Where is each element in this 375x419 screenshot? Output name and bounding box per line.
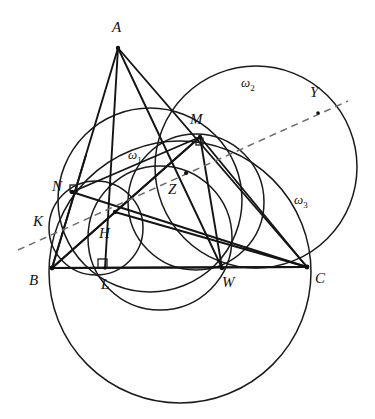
vertex-dot-N xyxy=(70,190,74,194)
segment-AC xyxy=(118,48,307,267)
circle-label-omega1: ω1 xyxy=(128,148,142,165)
circle-label-omega3: ω3 xyxy=(294,193,308,210)
circle-omega1 xyxy=(58,108,242,292)
vertex-dot-A xyxy=(116,46,120,50)
point-label-Z: Z xyxy=(168,182,176,197)
circle-omega2 xyxy=(155,66,357,268)
vertex-dot-Z xyxy=(184,171,188,175)
vertex-dot-Y xyxy=(316,111,320,115)
point-label-M: M xyxy=(190,112,203,127)
segment-B-Z-C xyxy=(52,267,307,268)
omega1-subscript: 1 xyxy=(137,155,142,165)
point-label-B: B xyxy=(29,273,38,288)
vertex-dot-L xyxy=(103,266,107,270)
point-label-W: W xyxy=(222,275,235,290)
omega2-base: ω xyxy=(241,75,250,90)
point-label-L: L xyxy=(101,277,109,292)
point-label-N: N xyxy=(52,179,62,194)
point-label-C: C xyxy=(315,271,325,286)
omega3-subscript: 3 xyxy=(303,200,308,210)
segment-BN-extended xyxy=(52,155,86,268)
omega3-base: ω xyxy=(294,192,303,207)
vertex-dot-M xyxy=(198,135,202,139)
geometry-canvas xyxy=(0,0,375,419)
point-label-Y: Y xyxy=(310,85,318,100)
vertex-dot-H xyxy=(113,210,117,214)
point-label-K: K xyxy=(33,214,43,229)
vertex-dot-W xyxy=(220,266,224,270)
segments-group xyxy=(52,48,307,268)
segment-HC xyxy=(115,212,307,267)
vertex-dots-group xyxy=(50,46,320,271)
omega1-base: ω xyxy=(128,147,137,162)
point-label-H: H xyxy=(99,226,110,241)
vertex-dot-C xyxy=(305,265,310,270)
omega2-subscript: 2 xyxy=(250,83,255,93)
circle-label-omega2: ω2 xyxy=(241,76,255,93)
geometry-figure: A B C L H N K M Z W Y ω1 ω2 ω3 xyxy=(0,0,375,419)
point-label-A: A xyxy=(112,20,121,35)
vertex-dot-B xyxy=(50,266,55,271)
